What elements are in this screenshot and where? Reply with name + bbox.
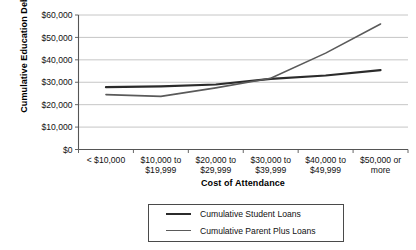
x-axis-category-label: $40,000 to xyxy=(305,155,346,165)
legend-item-student-loans: Cumulative Student Loans xyxy=(149,205,343,222)
x-axis-category-label: < $10,000 xyxy=(87,155,126,165)
legend-item-parent-plus-loans: Cumulative Parent Plus Loans xyxy=(149,222,343,239)
y-axis-tick-label: $10,000 xyxy=(41,122,72,132)
y-axis-tick-label: $20,000 xyxy=(41,100,72,110)
y-axis-tick-label: $30,000 xyxy=(41,77,72,87)
x-axis-category-label: $20,000 to xyxy=(195,155,236,165)
chart-legend: Cumulative Student Loans Cumulative Pare… xyxy=(148,204,344,242)
y-axis-tick-label: $0 xyxy=(63,145,73,155)
y-axis-tick-label: $50,000 xyxy=(41,33,72,43)
y-axis-tick-label: $40,000 xyxy=(41,55,72,65)
x-axis-category-label: $39,999 xyxy=(255,165,286,175)
x-axis-category-label: $29,999 xyxy=(200,165,231,175)
x-axis-category-label: $30,000 to xyxy=(250,155,291,165)
legend-label-student-loans: Cumulative Student Loans xyxy=(200,209,301,219)
gridlines-group xyxy=(79,15,409,127)
y-axis-tick-labels: $0$10,000$20,000$30,000$40,000$50,000$60… xyxy=(41,10,72,155)
legend-swatch-parent-plus-loans xyxy=(166,230,191,231)
x-axis-category-label: $10,000 to xyxy=(141,155,182,165)
y-axis-tick-label: $60,000 xyxy=(41,10,72,20)
x-axis-category-label: $19,999 xyxy=(145,165,176,175)
chart-figure: Cumulative Education Debt $0$10,000$20,0… xyxy=(0,0,416,250)
x-axis-category-label: $50,000 or xyxy=(360,155,401,165)
x-axis-title: Cost of Attendance xyxy=(78,178,408,188)
legend-label-parent-plus-loans: Cumulative Parent Plus Loans xyxy=(200,226,316,236)
x-axis-tick-labels: < $10,000$10,000 to$19,999$20,000 to$29,… xyxy=(87,155,402,176)
x-axis-category-label: more xyxy=(371,165,391,175)
legend-swatch-student-loans xyxy=(166,213,191,215)
x-axis-category-label: $49,999 xyxy=(310,165,341,175)
series-line-student-loans xyxy=(106,70,381,87)
